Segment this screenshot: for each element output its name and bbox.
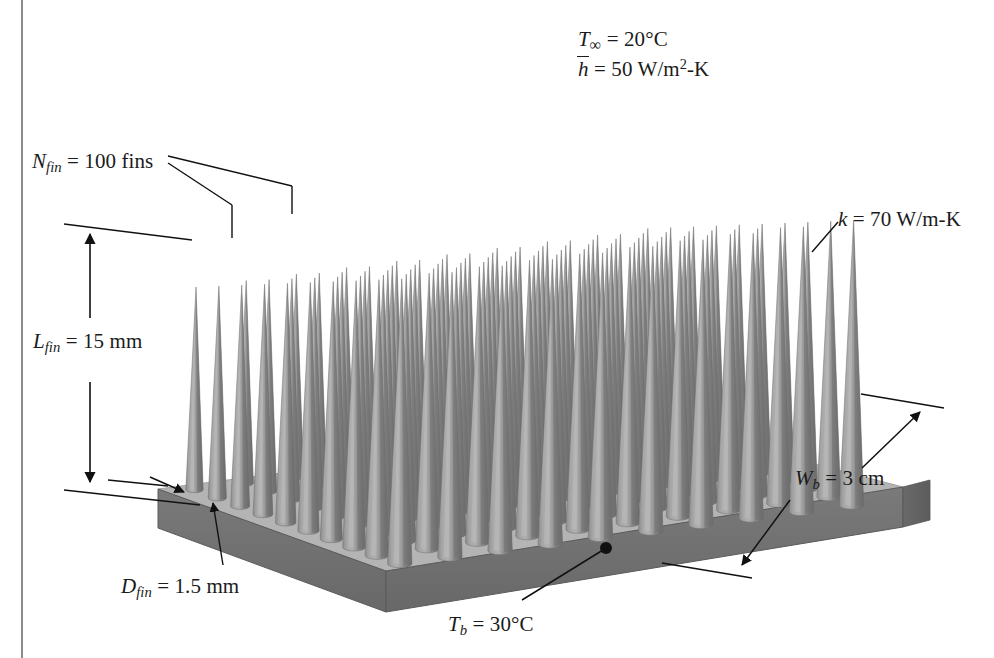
pin-fin-heat-sink-figure: T∞ = 20°C h = 50 W/m2-K Nfin = 100 fins … — [0, 0, 994, 658]
fin-count-label: Nfin = 100 fins — [32, 148, 153, 178]
ambient-conditions-label: T∞ = 20°C h = 50 W/m2-K — [578, 26, 709, 84]
fin-length-label: Lfin = 15 mm — [33, 328, 142, 358]
fins-word: fins — [121, 149, 153, 173]
fin-subscript: fin — [45, 339, 61, 355]
equals-sign: = — [607, 27, 619, 51]
degree-c-unit: °C — [645, 27, 668, 51]
equals-sign: = — [66, 329, 78, 353]
w-symbol: W — [795, 466, 813, 490]
base-temperature-label: Tb = 30°C — [448, 611, 534, 641]
h-bar-symbol: h — [578, 56, 589, 84]
fin-array — [186, 220, 864, 567]
thermal-conductivity-label: k = 70 W/m-K — [838, 206, 961, 234]
h-value: 50 — [611, 57, 632, 81]
wb-upper-extension-line — [861, 394, 944, 408]
equals-sign: = — [67, 149, 79, 173]
b-subscript: b — [460, 622, 467, 638]
fin-diameter-value: 1.5 — [174, 574, 201, 598]
wb-arrow-upper — [862, 412, 920, 468]
l-symbol: L — [33, 329, 45, 353]
fin-length-value: 15 — [83, 329, 104, 353]
t-symbol: T — [448, 612, 460, 636]
equals-sign: = — [472, 612, 484, 636]
mm-unit: mm — [206, 574, 239, 598]
tb-leader-dot — [600, 542, 612, 554]
pin-fin-shadow-side — [219, 286, 227, 500]
pin-fin-shadow-side — [196, 287, 203, 492]
equals-sign: = — [825, 466, 837, 490]
ambient-temperature-value: 20 — [624, 27, 645, 51]
cm-unit: cm — [859, 466, 885, 490]
lfin-upper-extension-line — [64, 224, 192, 240]
k-symbol: k — [838, 207, 847, 231]
diagram-canvas — [0, 0, 994, 658]
base-width-label: Wb = 3 cm — [795, 465, 884, 495]
t-infinity-symbol: T — [578, 27, 590, 51]
fin-subscript: fin — [136, 584, 152, 600]
base-temperature-value: 30 — [490, 612, 511, 636]
fin-diameter-label: Dfin = 1.5 mm — [121, 573, 239, 603]
wb-lower-extension-line — [662, 563, 752, 578]
k-unit: W/m-K — [896, 207, 961, 231]
base-right-end-face — [903, 480, 930, 527]
n-symbol: N — [32, 149, 46, 173]
d-symbol: D — [121, 574, 136, 598]
degree-c-unit: °C — [511, 612, 534, 636]
equals-sign: = — [853, 207, 865, 231]
mm-unit: mm — [110, 329, 143, 353]
b-subscript: b — [813, 476, 820, 492]
fin-count-value: 100 — [84, 149, 116, 173]
ambient-temperature-label: T∞ = 20°C — [578, 26, 709, 55]
k-leader-line — [812, 222, 838, 252]
equals-sign: = — [594, 57, 606, 81]
infinity-subscript: ∞ — [590, 36, 601, 53]
h-unit-exponent: 2 — [680, 56, 687, 72]
fin-subscript: fin — [46, 159, 62, 175]
thermal-conductivity-leader — [812, 222, 838, 252]
h-unit-k: -K — [687, 57, 709, 81]
pin-fin-shadow-side — [831, 221, 841, 500]
base-width-value: 3 — [843, 466, 854, 490]
fin-length-dimension — [64, 224, 200, 505]
heat-transfer-coefficient-label: h = 50 W/m2-K — [578, 55, 709, 84]
fin-count-leader — [168, 156, 292, 238]
equals-sign: = — [157, 574, 169, 598]
nfin-leader-line-1 — [168, 156, 292, 186]
thermal-conductivity-value: 70 — [870, 207, 891, 231]
h-unit-wm: W/m — [637, 57, 679, 81]
